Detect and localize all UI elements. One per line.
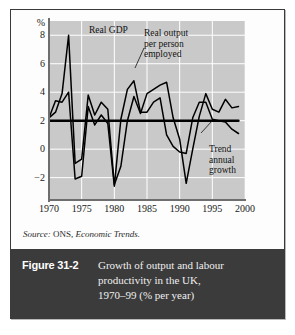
source-prefix: Source: bbox=[23, 229, 51, 239]
y-axis-line bbox=[48, 18, 50, 202]
figure-caption-bar: Figure 31-2 Growth of output and labour … bbox=[11, 249, 284, 318]
x-axis-line bbox=[48, 199, 246, 201]
x-axis-tick-label: 2000 bbox=[228, 202, 262, 216]
caption-line: 1970–99 (% per year) bbox=[98, 288, 276, 303]
annotation-line: growth bbox=[209, 165, 236, 176]
caption-inner: Figure 31-2 Growth of output and labour … bbox=[22, 258, 276, 303]
annotation-line: per person bbox=[144, 39, 188, 50]
x-axis-tick-label: 1985 bbox=[130, 202, 164, 216]
figure-panel: % −202468 1970197519801985199019952000 R… bbox=[10, 9, 285, 319]
source-organisation: ONS, bbox=[53, 229, 73, 239]
annotation-line: annual bbox=[209, 155, 236, 166]
source-note: Source: ONS, Economic Trends. bbox=[23, 229, 140, 239]
x-axis-ticks: 1970197519801985199019952000 bbox=[11, 202, 284, 220]
y-axis-tick-label: 6 bbox=[19, 59, 45, 69]
chart-area: % −202468 1970197519801985199019952000 R… bbox=[11, 10, 284, 249]
annotation-real-output-per-person: Real output per person employed bbox=[144, 28, 188, 60]
caption-line: Growth of output and labour bbox=[98, 258, 276, 273]
annotation-line: Trend bbox=[209, 144, 236, 155]
x-axis-tick-label: 1980 bbox=[97, 202, 131, 216]
source-publication: Economic Trends. bbox=[75, 229, 140, 239]
figure-number: Figure 31-2 bbox=[22, 258, 92, 273]
caption-line: productivity in the UK, bbox=[98, 273, 276, 288]
y-axis-unit-label: % bbox=[19, 18, 45, 28]
x-axis-tick-label: 1995 bbox=[195, 202, 229, 216]
annotation-line: Real output bbox=[144, 28, 188, 39]
y-axis-tick-label: 2 bbox=[19, 116, 45, 126]
x-axis-tick-label: 1970 bbox=[32, 202, 66, 216]
figure-caption-text: Growth of output and labour productivity… bbox=[98, 258, 276, 303]
figure-root: % −202468 1970197519801985199019952000 R… bbox=[0, 0, 295, 335]
y-axis-ticks: % −202468 bbox=[15, 10, 45, 210]
x-axis-tick-label: 1990 bbox=[163, 202, 197, 216]
annotation-line: employed bbox=[144, 49, 188, 60]
y-axis-tick-label: 4 bbox=[19, 87, 45, 97]
y-axis-tick-label: −2 bbox=[19, 173, 45, 183]
annotation-trend-annual-growth: Trend annual growth bbox=[209, 144, 236, 176]
annotation-real-gdp: Real GDP bbox=[89, 25, 128, 36]
x-axis-tick-label: 1975 bbox=[65, 202, 99, 216]
y-axis-tick-label: 0 bbox=[19, 144, 45, 154]
y-axis-tick-label: 8 bbox=[19, 30, 45, 40]
